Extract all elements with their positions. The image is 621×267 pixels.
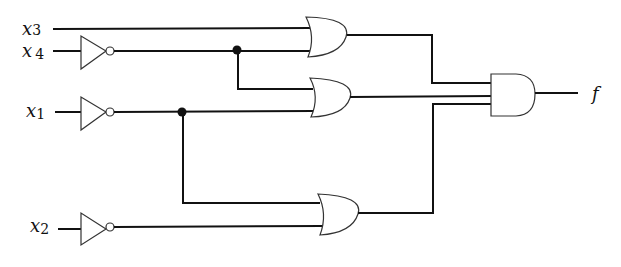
or-gate-3 — [318, 194, 359, 235]
input-label-x1: x1 — [26, 100, 45, 122]
not-gate-x2 — [81, 213, 114, 245]
or-gate-1 — [306, 17, 347, 57]
wire-or1-to-and — [347, 35, 492, 83]
input-label-x4: x4 — [22, 40, 44, 62]
or-gate-2 — [310, 78, 351, 117]
wire-or2-to-and — [350, 96, 492, 97]
not-gate-x4 — [81, 36, 114, 69]
input-label-x3: x3 — [22, 18, 41, 39]
and-gate — [491, 74, 535, 116]
wire-not-x4-to-or2 — [238, 50, 313, 89]
wire-or3-to-and — [358, 104, 492, 213]
wire-x3 — [53, 28, 310, 29]
wire-not-x2-to-or3 — [114, 226, 322, 227]
logic-circuit-diagram: x3 x4 x1 x2 f — [0, 0, 621, 267]
wire-not-x1-to-or2 — [114, 111, 313, 112]
output-label-f: f — [590, 83, 602, 104]
input-label-x2: x2 — [30, 215, 49, 237]
not-gate-x1 — [81, 97, 114, 130]
wire-not-x1-to-or3 — [183, 112, 320, 203]
